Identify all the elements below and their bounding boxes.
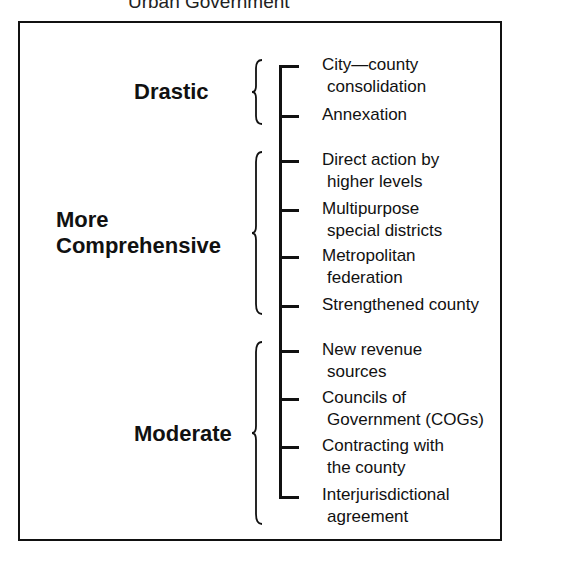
tick [279, 350, 299, 353]
tick [279, 496, 299, 499]
tick [279, 446, 299, 449]
item-text: agreement [322, 506, 450, 528]
item-text: federation [322, 267, 416, 289]
item-annexation: Annexation [322, 104, 407, 126]
category-more-comprehensive: More Comprehensive [56, 207, 221, 259]
item-text: the county [322, 457, 444, 479]
item-text: Direct action by [322, 150, 439, 169]
brace-more-comprehensive [250, 150, 266, 316]
item-text: sources [322, 361, 422, 383]
item-metropolitan-federation: Metropolitan federation [322, 245, 416, 289]
item-text: Councils of [322, 388, 406, 407]
item-interjurisdictional-agreement: Interjurisdictional agreement [322, 484, 450, 528]
item-text: New revenue [322, 340, 422, 359]
tick [279, 305, 299, 308]
item-text: Metropolitan [322, 246, 416, 265]
category-label: More [56, 207, 221, 233]
item-multipurpose-districts: Multipurpose special districts [322, 198, 442, 242]
item-text: consolidation [322, 76, 426, 98]
item-text: Contracting with [322, 436, 444, 455]
category-moderate: Moderate [134, 421, 232, 447]
item-direct-action: Direct action by higher levels [322, 149, 439, 193]
brace-drastic [250, 58, 266, 126]
item-text: Multipurpose [322, 199, 419, 218]
category-label: Drastic [134, 79, 209, 104]
item-city-county-consolidation: City—county consolidation [322, 54, 426, 98]
category-drastic: Drastic [134, 79, 209, 105]
tick [279, 160, 299, 163]
item-text: Interjurisdictional [322, 485, 450, 504]
figure-caption: Urban Government [128, 0, 290, 13]
item-text: higher levels [322, 171, 439, 193]
tick [279, 398, 299, 401]
item-text: special districts [322, 220, 442, 242]
item-text: City—county [322, 55, 418, 74]
tick [279, 65, 299, 68]
tick [279, 209, 299, 212]
item-councils-of-government: Councils of Government (COGs) [322, 387, 484, 431]
tick [279, 256, 299, 259]
item-new-revenue-sources: New revenue sources [322, 339, 422, 383]
item-text: Government (COGs) [322, 409, 484, 431]
item-contracting-with-county: Contracting with the county [322, 435, 444, 479]
trunk-line [279, 65, 282, 499]
item-text: Strengthened county [322, 295, 479, 314]
brace-moderate [250, 340, 266, 526]
category-label: Moderate [134, 421, 232, 446]
item-text: Annexation [322, 105, 407, 124]
tick [279, 115, 299, 118]
item-strengthened-county: Strengthened county [322, 294, 479, 316]
category-label: Comprehensive [56, 233, 221, 259]
